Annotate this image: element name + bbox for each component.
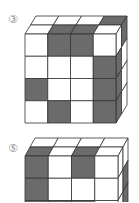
front-cell xyxy=(48,34,71,56)
front-cell xyxy=(48,201,71,203)
front-cell xyxy=(72,156,95,178)
front-cell xyxy=(48,101,71,123)
front-cell xyxy=(48,156,71,178)
front-cell xyxy=(48,56,71,78)
cube-diagrams xyxy=(0,0,139,202)
front-cell xyxy=(93,101,116,123)
front-cell xyxy=(95,201,118,203)
front-cell xyxy=(95,178,118,200)
front-cell xyxy=(25,178,48,200)
front-cell xyxy=(71,34,94,56)
front-cell xyxy=(25,34,48,56)
front-cell xyxy=(25,79,48,101)
front-cell xyxy=(71,79,94,101)
front-cell xyxy=(93,34,116,56)
front-cell xyxy=(25,201,48,203)
front-cell xyxy=(25,56,48,78)
front-cell xyxy=(95,156,118,178)
front-cell xyxy=(71,101,94,123)
front-cell xyxy=(72,178,95,200)
front-cell xyxy=(71,56,94,78)
front-cell xyxy=(48,178,71,200)
front-cell xyxy=(72,201,95,203)
front-cell xyxy=(48,79,71,101)
front-cell xyxy=(25,156,48,178)
front-cell xyxy=(25,101,48,123)
front-cell xyxy=(93,79,116,101)
front-cell xyxy=(93,56,116,78)
